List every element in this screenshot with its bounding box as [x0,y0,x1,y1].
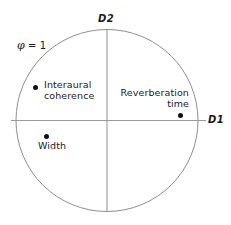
data-point-label-width: Width [38,141,66,152]
data-point-label-interaural-coherence: Interauralcoherence [44,80,94,101]
label-line-2: time [167,98,189,109]
axis-label-d2: D2 [98,13,114,24]
data-point-label-reverberation-time: Reverberationtime [117,88,189,109]
diagram-canvas [0,0,231,225]
circle-diagram-figure: D2 D1 φ = 1 Interauralcoherence Reverber… [0,0,231,225]
label-line-1: Reverberation [121,87,190,98]
label-line-2: coherence [44,90,94,101]
data-point-reverberation-time [178,113,183,118]
data-point-width [44,134,49,139]
data-point-interaural-coherence [33,85,38,90]
circle-radius-annotation: φ = 1 [17,40,46,52]
phi-value: = 1 [25,40,47,51]
axis-label-d1: D1 [208,114,224,125]
phi-symbol: φ [17,39,25,52]
label-line-1: Interaural [44,79,92,90]
